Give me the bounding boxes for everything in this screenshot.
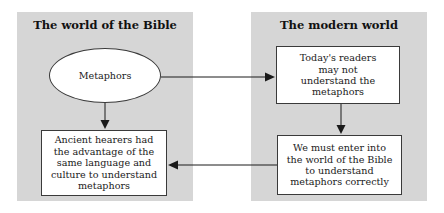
panel-title-bible: The world of the Bible — [17, 18, 193, 32]
node-todays-readers: Today's readers may not understand the m… — [276, 46, 400, 104]
node-enter-world-label: We must enter into the world of the Bibl… — [286, 142, 393, 188]
node-ancient-hearers-label: Ancient hearers had the advantage of the… — [48, 134, 160, 191]
node-metaphors-label: Metaphors — [79, 70, 132, 81]
node-todays-readers-label: Today's readers may not understand the m… — [297, 52, 379, 98]
node-enter-world: We must enter into the world of the Bibl… — [277, 135, 402, 195]
node-metaphors: Metaphors — [49, 48, 161, 103]
node-ancient-hearers: Ancient hearers had the advantage of the… — [41, 130, 167, 196]
panel-title-modern: The modern world — [251, 18, 427, 32]
